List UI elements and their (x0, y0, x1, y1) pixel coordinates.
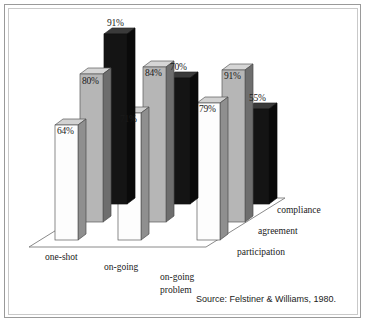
bar-g2-participation (197, 97, 228, 240)
value-label-on-going-problem-compliance: 55% (249, 93, 266, 103)
category-label-on-going-problem-line2: problem (160, 285, 192, 295)
value-label-on-going-problem-participation: 79% (199, 104, 216, 114)
source-note: Source: Felstiner & Williams, 1980. (196, 294, 336, 304)
bar-g0-participation (55, 119, 86, 240)
series-label-participation: participation (237, 247, 285, 257)
value-label-on-going-agreement: 84% (145, 68, 162, 78)
chart-frame: 64% 80% 91% 71% 84% 70% 79% 91% 55% one-… (0, 0, 366, 323)
category-label-on-going-problem-line1: on-going (160, 272, 194, 282)
value-label-on-going-problem-agreement: 91% (224, 71, 241, 81)
value-label-one-shot-agreement: 80% (82, 76, 99, 86)
value-label-on-going-compliance: 70% (170, 62, 187, 72)
series-label-agreement: agreement (258, 226, 298, 236)
series-label-compliance: compliance (277, 205, 321, 215)
value-label-on-going-participation: 71% (120, 114, 137, 124)
value-label-one-shot-participation: 64% (57, 126, 74, 136)
bar-chart-3d: 64% 80% 91% 71% 84% 70% 79% 91% 55% one-… (0, 0, 366, 323)
category-label-on-going: on-going (104, 262, 138, 272)
category-label-one-shot: one-shot (45, 252, 78, 262)
value-label-one-shot-compliance: 91% (107, 18, 124, 28)
